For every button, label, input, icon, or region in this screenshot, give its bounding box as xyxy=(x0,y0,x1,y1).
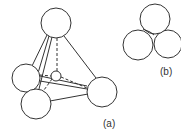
sphere-left xyxy=(12,64,40,92)
packed-sphere-left xyxy=(123,30,153,60)
edge-front-right xyxy=(50,94,88,101)
edge-top-right xyxy=(64,36,96,78)
sphere-right xyxy=(87,77,117,107)
label-b: (b) xyxy=(160,66,172,77)
packed-sphere-right xyxy=(154,30,181,58)
dashed-center-front xyxy=(44,79,52,90)
label-a: (a) xyxy=(103,118,115,129)
tetrahedron-spheres xyxy=(12,8,117,119)
packed-spheres xyxy=(123,4,181,60)
interstitial-sphere xyxy=(51,71,61,81)
figure: (a) (b) xyxy=(0,0,181,137)
sphere-front xyxy=(21,89,51,119)
diagram-canvas xyxy=(0,0,181,137)
sphere-top xyxy=(41,8,71,38)
